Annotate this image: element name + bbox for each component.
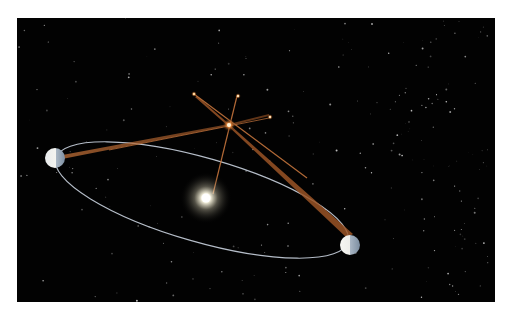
background-star — [69, 167, 70, 168]
background-star — [342, 39, 343, 40]
background-star — [192, 278, 193, 279]
background-star — [391, 187, 392, 188]
background-star — [431, 103, 433, 105]
background-star — [67, 98, 68, 99]
background-star — [29, 120, 30, 121]
background-star — [312, 183, 314, 185]
background-star — [48, 41, 49, 42]
background-star — [395, 101, 396, 102]
background-star — [423, 230, 424, 231]
background-star — [486, 166, 487, 167]
background-star — [137, 225, 139, 227]
background-star — [243, 74, 245, 76]
background-star — [405, 92, 406, 93]
background-star — [37, 147, 39, 149]
background-star — [294, 29, 295, 30]
background-star — [456, 161, 457, 162]
background-star — [421, 297, 422, 298]
background-star — [460, 234, 462, 236]
background-star — [464, 223, 465, 224]
background-star — [464, 238, 466, 240]
background-star — [422, 48, 424, 50]
background-star — [459, 21, 460, 22]
background-star — [218, 30, 220, 32]
background-star — [390, 109, 391, 110]
background-star — [483, 162, 484, 163]
background-star — [409, 128, 410, 129]
background-star — [478, 37, 479, 38]
background-star — [254, 298, 256, 300]
background-star — [477, 198, 479, 200]
background-star — [458, 294, 459, 295]
background-star — [338, 66, 340, 68]
background-star — [461, 229, 462, 230]
background-star — [56, 172, 57, 173]
background-star — [424, 218, 425, 219]
background-star — [218, 43, 219, 44]
background-star — [233, 246, 235, 248]
background-star — [75, 81, 77, 83]
background-star — [254, 275, 255, 276]
background-star — [20, 175, 22, 177]
background-star — [416, 65, 417, 66]
near-star — [227, 123, 231, 127]
background-star — [461, 200, 462, 201]
background-star — [298, 275, 300, 277]
background-star — [215, 68, 216, 69]
background-star — [344, 208, 346, 210]
background-star — [261, 244, 262, 245]
sun — [202, 194, 211, 203]
background-star — [210, 74, 212, 76]
background-star — [319, 142, 320, 143]
background-star — [370, 113, 371, 114]
background-star — [123, 119, 125, 121]
background-star — [157, 223, 158, 224]
background-star — [228, 109, 229, 110]
background-star — [436, 94, 437, 95]
background-star — [428, 98, 430, 100]
background-star — [303, 91, 304, 92]
sightline-bg-star-1 — [194, 94, 307, 178]
background-star — [360, 152, 362, 154]
background-star — [216, 142, 217, 143]
background-star — [285, 272, 286, 273]
background-star — [433, 166, 434, 167]
background-star — [228, 63, 230, 65]
background-star — [26, 175, 27, 176]
background-star — [117, 168, 118, 169]
background-star — [464, 56, 466, 58]
background-star — [468, 152, 469, 153]
background-star — [472, 154, 473, 155]
background-star — [404, 210, 405, 211]
background-star — [433, 127, 434, 128]
background-star — [455, 291, 456, 292]
background-star — [293, 122, 294, 123]
background-star — [428, 267, 430, 269]
background-star — [459, 190, 461, 192]
background-star — [267, 224, 269, 226]
background-star — [475, 243, 476, 244]
background-star — [421, 172, 422, 173]
background-star — [424, 159, 425, 160]
background-star — [287, 245, 288, 246]
sightline-left-earth — [57, 114, 269, 160]
background-star — [154, 48, 156, 50]
background-star — [434, 250, 435, 251]
background-star — [288, 135, 289, 136]
background-star — [313, 153, 315, 155]
background-star — [264, 252, 265, 253]
background-star — [448, 166, 449, 167]
background-star — [299, 291, 300, 292]
background-star — [449, 111, 451, 113]
background-star — [70, 151, 71, 152]
background-star — [475, 83, 476, 84]
background-star — [434, 216, 435, 217]
background-star — [128, 76, 130, 78]
background-star — [156, 156, 157, 157]
background-star — [461, 248, 463, 250]
background-star — [95, 296, 96, 297]
background-star — [171, 261, 173, 263]
background-star — [198, 81, 199, 82]
background-star — [288, 110, 290, 112]
background-star — [474, 208, 475, 209]
